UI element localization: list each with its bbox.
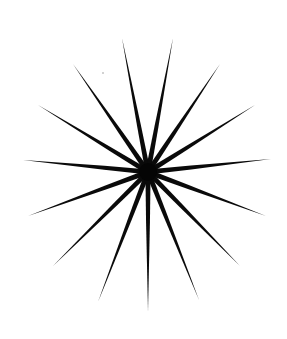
speck [102,72,104,74]
specks [102,72,104,74]
starburst-canvas [0,0,287,339]
starburst-hub [139,163,157,181]
